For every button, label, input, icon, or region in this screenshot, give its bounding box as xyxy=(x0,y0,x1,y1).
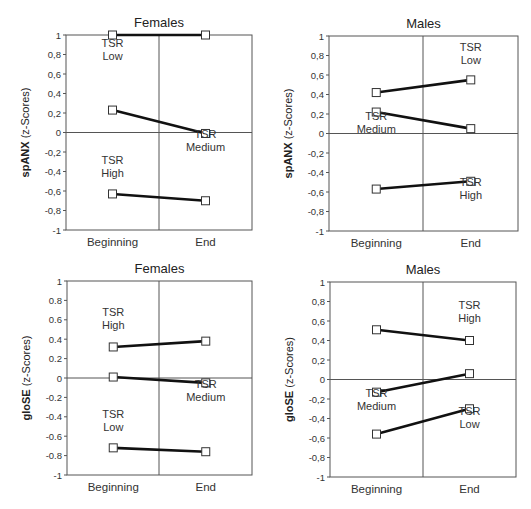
y-tick-label: -0,4 xyxy=(308,167,324,178)
y-tick-label: 0,4 xyxy=(311,89,324,100)
y-tick-label: 0,4 xyxy=(48,88,61,99)
y-tick-label: -0.4 xyxy=(46,411,62,422)
x-category-label: Beginning xyxy=(351,237,402,249)
annotation-line: TSR xyxy=(195,378,217,390)
series-annotation: TSRLow xyxy=(102,37,124,62)
y-tick-label: 1 xyxy=(320,277,325,288)
y-tick-label: -0,4 xyxy=(309,413,325,424)
y-axis-label: spANX (z-Scores) xyxy=(19,88,31,178)
annotation-line: High xyxy=(101,167,124,179)
x-category-label: End xyxy=(459,483,479,495)
y-tick-label: -0,6 xyxy=(309,433,325,444)
y-tick-label: -0,2 xyxy=(45,147,61,158)
annotation-line: Medium xyxy=(357,123,396,135)
annotation-line: TSR xyxy=(102,37,124,49)
annotation-line: TSR xyxy=(102,306,124,318)
y-tick-label: 0,6 xyxy=(311,70,324,81)
chart-panel-bottom-left-females-glose: Females10.80.60.40.20-0.2-0.4-0.6-0.8-1B… xyxy=(20,261,252,493)
square-marker-icon xyxy=(109,343,117,351)
annotation-line: TSR xyxy=(195,128,217,140)
y-axis-label-unit: (z-Scores) xyxy=(283,337,295,388)
y-tick-label: 0.2 xyxy=(49,353,62,364)
y-tick-label: 0,6 xyxy=(312,316,325,327)
annotation-line: TSR xyxy=(460,41,482,53)
square-marker-icon xyxy=(202,448,210,456)
square-marker-icon xyxy=(109,373,117,381)
square-marker-icon xyxy=(202,337,210,345)
y-tick-label: -0,8 xyxy=(45,205,61,216)
chart-panel-top-right-males-spanx: Males10,80,60,40,20-0,2-0,4-0,6-0,8-1Beg… xyxy=(282,16,518,249)
y-axis-label-variable: gloSE xyxy=(283,388,295,422)
chart-figure: Females10,80,60,40,20-0,2-0,4-0,6-0,8-1B… xyxy=(0,0,531,509)
series-annotation: TSRMedium xyxy=(186,128,225,153)
y-tick-label: 0.4 xyxy=(49,334,62,345)
square-marker-icon xyxy=(466,337,474,345)
annotation-line: TSR xyxy=(366,387,388,399)
y-tick-label: 0,2 xyxy=(48,108,61,119)
series-annotation: TSRLow xyxy=(459,405,481,430)
y-tick-label: 0,8 xyxy=(312,296,325,307)
annotation-line: TSR xyxy=(459,405,481,417)
annotation-line: Medium xyxy=(186,141,225,153)
chart-title: Males xyxy=(406,16,441,31)
y-tick-label: 0 xyxy=(319,128,324,139)
y-tick-label: 0 xyxy=(320,374,325,385)
y-tick-label: 1 xyxy=(57,276,62,287)
annotation-line: TSR xyxy=(459,299,481,311)
y-tick-label: -1 xyxy=(317,472,325,483)
y-tick-label: 0 xyxy=(57,373,62,384)
square-marker-icon xyxy=(372,185,380,193)
annotation-line: TSR xyxy=(460,176,482,188)
y-tick-label: 0,8 xyxy=(48,49,61,60)
y-axis-label-unit: (z-Scores) xyxy=(282,89,294,140)
series-annotation: TSRHigh xyxy=(102,306,125,331)
y-tick-label: 1 xyxy=(319,31,324,42)
y-tick-label: -1 xyxy=(316,226,324,237)
square-marker-icon xyxy=(373,326,381,334)
chart-panel-top-left-females-spanx: Females10,80,60,40,20-0,2-0,4-0,6-0,8-1B… xyxy=(19,15,252,248)
x-category-label: Beginning xyxy=(88,481,139,493)
y-tick-label: -0,8 xyxy=(308,206,324,217)
series-annotation: TSRLow xyxy=(460,41,482,66)
x-category-label: End xyxy=(196,481,216,493)
annotation-line: High xyxy=(459,189,482,201)
y-tick-label: -0,6 xyxy=(45,186,61,197)
y-tick-label: 0,4 xyxy=(312,335,325,346)
chart-panel-bottom-right-males-glose: Males10,80,60,40,20-0,2-0,4-0,6-0,8-1Beg… xyxy=(283,262,516,495)
y-tick-label: -0,8 xyxy=(309,452,325,463)
x-category-label: Beginning xyxy=(87,236,138,248)
y-axis-label-unit: (z-Scores) xyxy=(19,88,31,139)
chart-title: Females xyxy=(134,15,184,30)
y-tick-label: -0,6 xyxy=(308,187,324,198)
annotation-line: TSR xyxy=(102,408,124,420)
square-marker-icon xyxy=(466,370,474,378)
square-marker-icon xyxy=(372,89,380,97)
y-axis-label-unit: (z-Scores) xyxy=(20,336,32,387)
x-category-label: End xyxy=(461,237,481,249)
square-marker-icon xyxy=(109,190,117,198)
y-tick-label: 0,2 xyxy=(311,109,324,120)
annotation-line: Low xyxy=(103,421,123,433)
y-axis-label-variable: spANX xyxy=(282,139,294,178)
y-tick-label: -0,4 xyxy=(45,166,61,177)
annotation-line: High xyxy=(102,319,125,331)
square-marker-icon xyxy=(373,430,381,438)
series-annotation: TSRLow xyxy=(102,408,124,433)
y-tick-label: -0.8 xyxy=(46,450,62,461)
x-category-label: Beginning xyxy=(351,483,402,495)
y-tick-label: -0,2 xyxy=(308,148,324,159)
y-axis-label-variable: gloSE xyxy=(20,386,32,420)
y-tick-label: 0,2 xyxy=(312,355,325,366)
square-marker-icon xyxy=(202,31,210,39)
x-category-label: End xyxy=(195,236,215,248)
annotation-line: High xyxy=(458,312,481,324)
y-axis-label: gloSE (z-Scores) xyxy=(283,337,295,422)
square-marker-icon xyxy=(467,125,475,133)
series-annotation: TSRHigh xyxy=(101,154,124,179)
series-annotation: TSRHigh xyxy=(459,176,482,201)
annotation-line: TSR xyxy=(102,154,124,166)
chart-title: Females xyxy=(135,261,185,276)
annotation-line: TSR xyxy=(365,110,387,122)
annotation-line: Medium xyxy=(357,400,396,412)
y-tick-label: 0.6 xyxy=(49,314,62,325)
